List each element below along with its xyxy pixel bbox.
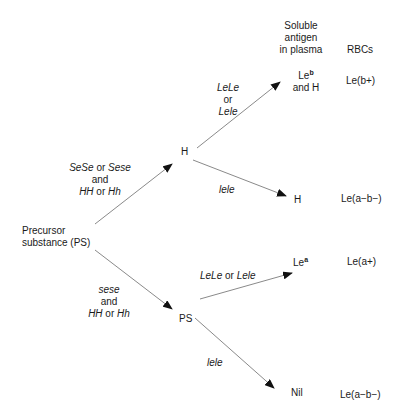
or-text: or [94,162,108,173]
precursor-line1: Precursor [22,225,90,237]
header-soluble-antigen: Soluble antigen in plasma [276,20,326,56]
node-h-intermediate: H [181,146,188,158]
node-precursor-substance: Precursor substance (PS) [22,225,90,249]
genotype-Hh: Hh [117,308,130,319]
arrow-ps-to-nil [195,318,274,388]
header-rbcs: RBCs [347,44,373,56]
lea-superscript: a [304,256,308,263]
edge-label-ps-to-lea: LeLe or Lele [200,270,256,282]
genotype-Hh: Hh [108,186,121,197]
genotype-LeLe: LeLe [217,82,239,93]
pathway-arrows [0,0,402,419]
and-text: and [55,174,145,186]
rbc-le-a-neg-b-neg-1: Le(a−b−) [341,193,382,205]
edge-label-h-to-h: lele [219,184,235,196]
or-text: or [222,270,236,281]
node-ps-intermediate: PS [179,313,192,325]
or-text: or [208,94,248,106]
or-text: or [94,186,108,197]
edge-label-h-to-leb: LeLe or Lele [208,82,248,118]
leb-and-h: and H [286,82,326,94]
header-soluble-line2: antigen [276,32,326,44]
node-leb-and-h: Leb and H [286,70,326,94]
node-h-output: H [294,194,301,206]
edge-label-ps-to-h: SeSe or Sese and HH or Hh [55,162,145,198]
edge-label-ps-to-nil: lele [207,357,223,369]
precursor-line2: substance (PS) [22,237,90,249]
genotype-LeLe: LeLe [200,270,222,281]
or-text: or [103,308,117,319]
header-soluble-line3: in plasma [276,44,326,56]
and-text: and [82,296,136,308]
node-nil: Nil [291,387,303,399]
lea-base: Le [293,257,304,268]
leb-superscript: b [309,69,313,76]
genotype-sese: sese [98,284,119,295]
genotype-lele: lele [207,357,223,368]
genotype-SeSe: SeSe [69,162,93,173]
genotype-lele: lele [219,184,235,195]
genotype-Lele: Lele [219,106,238,117]
header-soluble-line1: Soluble [276,20,326,32]
leb-base: Le [298,70,309,81]
rbc-le-a-pos: Le(a+) [347,256,376,268]
genotype-HH: HH [88,308,102,319]
node-lea: Lea [293,257,308,269]
arrow-h-to-h [193,160,286,196]
edge-label-ps-to-ps: sese and HH or Hh [82,284,136,320]
rbc-le-b-pos: Le(b+) [346,75,375,87]
genotype-Lele: Lele [237,270,256,281]
genotype-HH: HH [79,186,93,197]
genotype-Sese: Sese [108,162,131,173]
rbc-le-a-neg-b-neg-2: Le(a−b−) [340,389,381,401]
